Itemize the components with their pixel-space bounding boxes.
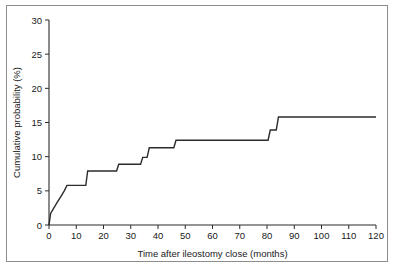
axis-lines [49, 20, 376, 225]
x-tick-label: 120 [368, 230, 384, 241]
x-axis-ticks [49, 225, 376, 229]
x-axis-title: Time after ileostomy close (months) [137, 248, 287, 259]
y-tick-label: 15 [31, 117, 42, 128]
figure-root: 051015202530 010203040506070809010011012… [0, 0, 399, 270]
x-tick-label: 100 [314, 230, 330, 241]
x-tick-label: 10 [71, 230, 82, 241]
figure-frame-border: 051015202530 010203040506070809010011012… [6, 5, 388, 262]
y-tick-label: 20 [31, 83, 42, 94]
y-tick-label: 0 [37, 220, 42, 231]
x-axis-tick-labels: 0102030405060708090100110120 [46, 230, 384, 241]
x-tick-label: 40 [153, 230, 164, 241]
cumulative-probability-step-curve [49, 117, 376, 225]
x-tick-label: 30 [125, 230, 136, 241]
x-tick-label: 110 [341, 230, 356, 241]
x-tick-label: 70 [234, 230, 245, 241]
y-axis-ticks [45, 20, 49, 225]
x-tick-label: 60 [207, 230, 218, 241]
x-tick-label: 20 [98, 230, 109, 241]
y-axis-title: Cumulative probability (%) [11, 67, 22, 178]
x-tick-label: 80 [262, 230, 273, 241]
y-tick-label: 25 [31, 49, 42, 60]
y-tick-label: 5 [37, 185, 42, 196]
y-axis-tick-labels: 051015202530 [31, 15, 42, 231]
x-tick-label: 50 [180, 230, 191, 241]
kaplan-meier-step-chart: 051015202530 010203040506070809010011012… [7, 6, 387, 261]
y-tick-label: 30 [31, 15, 42, 26]
x-tick-label: 90 [289, 230, 300, 241]
x-tick-label: 0 [46, 230, 51, 241]
y-tick-label: 10 [31, 151, 42, 162]
